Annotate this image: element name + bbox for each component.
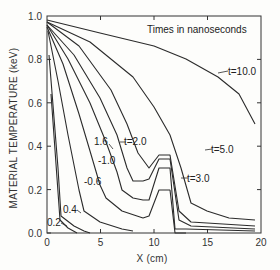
label-t-3.0: t=3.0 xyxy=(187,173,210,184)
plot-frame xyxy=(47,16,261,233)
y-tick-label: 0.4 xyxy=(28,141,42,152)
label-t-10.0: t=10.0 xyxy=(228,66,257,77)
y-axis: 0.0 0.2 0.4 0.6 0.8 1.0 xyxy=(28,11,51,239)
label-t-1.0: -1.0 xyxy=(98,155,116,166)
y-tick-label: 0.6 xyxy=(28,98,42,109)
y-axis-right-ticks xyxy=(257,59,261,189)
chart-annotation: Times in nanoseconds xyxy=(147,24,247,35)
x-tick-label: 5 xyxy=(98,237,104,248)
curve-labels: 0.2 0.4 -0.6 -1.0 1.6 t=2.0 t=3.0 t=5.0 … xyxy=(47,66,257,228)
curve-t-1.6 xyxy=(47,25,255,231)
label-t-1.6: 1.6 xyxy=(94,136,108,147)
label-t-0.2: 0.2 xyxy=(47,217,61,228)
curve-t-5.0 xyxy=(47,22,255,220)
y-axis-title: MATERIAL TEMPERATURE (keV) xyxy=(8,48,19,209)
label-t-5.0: t=5.0 xyxy=(211,144,234,155)
curve-t-2.0 xyxy=(47,25,255,229)
x-tick-label: 15 xyxy=(202,237,214,248)
y-tick-label: 0.2 xyxy=(28,185,42,196)
x-axis-title: X (cm) xyxy=(136,253,167,264)
curves xyxy=(47,20,255,233)
x-tick-label: 0 xyxy=(44,237,50,248)
label-t-2.0: t=2.0 xyxy=(124,136,147,147)
x-axis: 0 5 10 15 20 xyxy=(44,16,267,248)
y-tick-label: 0.8 xyxy=(28,54,42,65)
temperature-chart: 0.0 0.2 0.4 0.6 0.8 1.0 0 5 10 15 20 X (… xyxy=(0,0,280,270)
label-t-0.4: 0.4 xyxy=(63,204,77,215)
x-tick-label: 20 xyxy=(255,237,267,248)
x-tick-label: 10 xyxy=(148,237,160,248)
y-tick-label: 0.0 xyxy=(28,228,42,239)
label-t-0.6: -0.6 xyxy=(84,176,102,187)
y-tick-label: 1.0 xyxy=(28,11,42,22)
